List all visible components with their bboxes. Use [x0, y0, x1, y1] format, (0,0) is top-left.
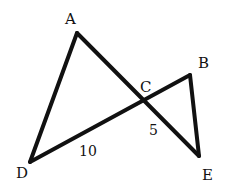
triangle-diagram: A B C D E 5 10 [0, 0, 226, 188]
label-a: A [64, 10, 76, 28]
segment-db [30, 75, 190, 162]
measure-dc: 10 [79, 143, 97, 159]
label-b: B [198, 54, 209, 72]
segment-ad [30, 33, 77, 162]
segment-be [190, 75, 199, 156]
segment-ae [77, 33, 199, 156]
label-e: E [202, 166, 213, 184]
label-c: C [140, 78, 151, 96]
label-d: D [16, 164, 28, 182]
measure-ce: 5 [149, 122, 158, 138]
